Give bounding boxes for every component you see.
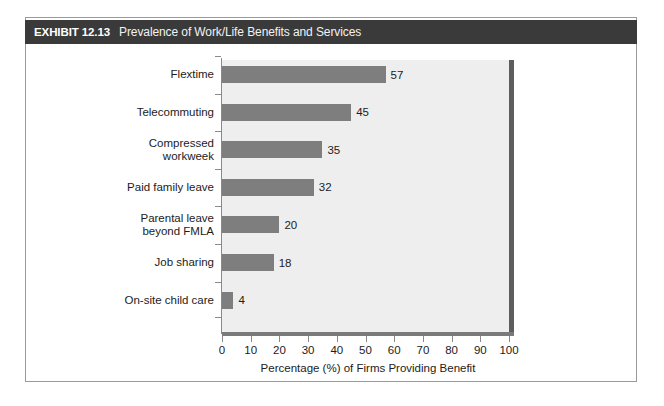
exhibit-title: Prevalence of Work/Life Benefits and Ser… xyxy=(119,25,361,39)
x-axis-tick xyxy=(337,336,338,342)
y-axis-tick xyxy=(215,206,221,207)
category-label: Job sharing xyxy=(44,256,214,269)
exhibit-number-label: EXHIBIT 12.13 xyxy=(34,26,110,38)
bar xyxy=(222,216,279,233)
bar-value-label: 32 xyxy=(319,181,332,193)
bar xyxy=(222,66,386,83)
x-axis-tick-label: 80 xyxy=(445,344,458,356)
x-axis-tick-label: 20 xyxy=(273,344,286,356)
x-axis-tick-label: 0 xyxy=(219,344,225,356)
bar-value-label: 57 xyxy=(391,69,404,81)
x-axis-tick xyxy=(423,336,424,342)
bar xyxy=(222,254,274,271)
y-axis-tick xyxy=(215,169,221,170)
y-axis-tick xyxy=(215,282,221,283)
bar xyxy=(222,179,314,196)
x-axis-tick-label: 60 xyxy=(388,344,401,356)
bar-chart: 5745353220184 FlextimeTelecommutingCompr… xyxy=(25,44,637,382)
bar-value-label: 18 xyxy=(279,257,292,269)
y-axis-tick xyxy=(215,94,221,95)
category-label: Compressed workweek xyxy=(44,137,214,163)
x-axis-tick xyxy=(394,336,395,342)
category-label: On-site child care xyxy=(44,294,214,307)
x-axis-tick-label: 40 xyxy=(330,344,343,356)
plot-side-wall xyxy=(509,60,514,336)
bar-value-label: 45 xyxy=(356,106,369,118)
category-label: Paid family leave xyxy=(44,181,214,194)
y-axis-tick xyxy=(215,244,221,245)
x-axis-tick-label: 30 xyxy=(302,344,315,356)
bar xyxy=(222,141,322,158)
category-label: Flextime xyxy=(44,68,214,81)
y-axis-tick xyxy=(215,317,221,318)
category-label: Parental leave beyond FMLA xyxy=(44,212,214,238)
bar-value-label: 35 xyxy=(327,144,340,156)
bar-value-label: 4 xyxy=(238,294,244,306)
x-axis-title: Percentage (%) of Firms Providing Benefi… xyxy=(222,362,514,374)
x-axis-tick xyxy=(452,336,453,342)
x-axis-tick xyxy=(480,336,481,342)
x-axis-tick-label: 10 xyxy=(244,344,257,356)
x-axis-tick xyxy=(509,336,510,342)
bar xyxy=(222,104,351,121)
exhibit-header: EXHIBIT 12.13 Prevalence of Work/Life Be… xyxy=(25,20,637,44)
x-axis-tick-label: 70 xyxy=(416,344,429,356)
y-axis-tick xyxy=(215,56,221,57)
x-axis-tick-label: 90 xyxy=(474,344,487,356)
x-axis-tick xyxy=(366,336,367,342)
x-axis-tick-label: 50 xyxy=(359,344,372,356)
bar xyxy=(222,292,233,309)
x-axis-tick xyxy=(308,336,309,342)
x-axis-tick-label: 100 xyxy=(499,344,518,356)
bar-value-label: 20 xyxy=(284,219,297,231)
y-axis-tick xyxy=(215,131,221,132)
plot-panel-background xyxy=(222,60,509,332)
category-label: Telecommuting xyxy=(44,106,214,119)
x-axis-line xyxy=(222,332,514,336)
x-axis-tick xyxy=(279,336,280,342)
x-axis-tick xyxy=(222,336,223,342)
x-axis-tick xyxy=(251,336,252,342)
